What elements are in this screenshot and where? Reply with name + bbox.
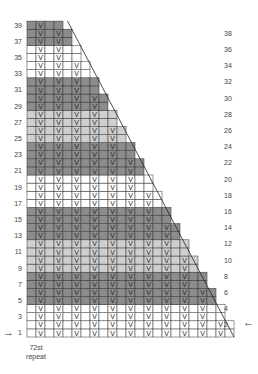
slip-stitch-v-icon: V <box>128 200 133 207</box>
right-row-number: 38 <box>224 30 244 38</box>
left-row-number: 33 <box>2 70 22 78</box>
right-row-number: 28 <box>224 111 244 119</box>
slip-stitch-v-icon: V <box>110 305 115 312</box>
chart-cell <box>99 280 108 288</box>
slip-stitch-v-icon: V <box>56 321 61 328</box>
chart-cell <box>81 256 90 264</box>
chart-cell <box>45 329 54 337</box>
slip-stitch-v-icon: V <box>182 273 187 280</box>
slip-stitch-v-icon: V <box>110 313 115 320</box>
slip-stitch-v-icon: V <box>110 330 115 337</box>
slip-stitch-v-icon: V <box>92 192 97 199</box>
slip-stitch-v-icon: V <box>182 313 187 320</box>
slip-stitch-v-icon: V <box>38 46 43 53</box>
slip-stitch-v-icon: V <box>92 135 97 142</box>
slip-stitch-v-icon: V <box>164 273 169 280</box>
chart-cell <box>45 86 54 94</box>
slip-stitch-v-icon: V <box>38 330 43 337</box>
slip-stitch-v-icon: V <box>128 257 133 264</box>
chart-cell <box>117 126 126 134</box>
slip-stitch-v-icon: V <box>56 127 61 134</box>
slip-stitch-v-icon: V <box>56 151 61 158</box>
chart-cell <box>27 21 36 29</box>
chart-cell <box>27 143 36 151</box>
chart-cell <box>81 313 90 321</box>
slip-stitch-v-icon: V <box>92 289 97 296</box>
slip-stitch-v-icon: V <box>110 208 115 215</box>
slip-stitch-v-icon: V <box>38 119 43 126</box>
slip-stitch-v-icon: V <box>56 208 61 215</box>
slip-stitch-v-icon: V <box>56 289 61 296</box>
slip-stitch-v-icon: V <box>164 257 169 264</box>
chart-cell <box>189 321 198 329</box>
chart-cell <box>27 175 36 183</box>
chart-cell <box>45 264 54 272</box>
slip-stitch-v-icon: V <box>146 289 151 296</box>
slip-stitch-v-icon: V <box>38 216 43 223</box>
slip-stitch-v-icon: V <box>74 240 79 247</box>
slip-stitch-v-icon: V <box>164 321 169 328</box>
chart-cell <box>45 280 54 288</box>
chart-cell <box>81 216 90 224</box>
chart-cell <box>99 272 108 280</box>
chart-cell <box>27 207 36 215</box>
slip-stitch-v-icon: V <box>182 281 187 288</box>
chart-cell <box>27 78 36 86</box>
slip-stitch-v-icon: V <box>146 330 151 337</box>
slip-stitch-v-icon: V <box>56 119 61 126</box>
chart-cell <box>135 305 144 313</box>
chart-cell <box>99 183 108 191</box>
chart-cell <box>207 288 216 296</box>
chart-cell <box>63 216 72 224</box>
chart-cell <box>45 256 54 264</box>
knitting-chart: VVVVVVVVVVVVVVVVVVVVVVVVVVVVVVVVVVVVVVVV… <box>0 0 258 374</box>
chart-cell <box>171 272 180 280</box>
slip-stitch-v-icon: V <box>128 168 133 175</box>
chart-cell <box>153 297 162 305</box>
chart-cell <box>81 329 90 337</box>
chart-cell <box>99 224 108 232</box>
chart-cell <box>117 175 126 183</box>
chart-cell <box>45 70 54 78</box>
chart-cell <box>81 264 90 272</box>
chart-cell <box>54 21 63 29</box>
slip-stitch-v-icon: V <box>92 313 97 320</box>
chart-cell <box>45 321 54 329</box>
chart-cell <box>81 70 90 78</box>
chart-cell <box>99 305 108 313</box>
left-row-number: 35 <box>2 54 22 62</box>
chart-cell <box>135 329 144 337</box>
chart-cell <box>27 321 36 329</box>
slip-stitch-v-icon: V <box>38 95 43 102</box>
chart-cell <box>27 297 36 305</box>
chart-cell <box>45 183 54 191</box>
chart-cell <box>63 126 72 134</box>
slip-stitch-v-icon: V <box>146 249 151 256</box>
slip-stitch-v-icon: V <box>182 305 187 312</box>
slip-stitch-v-icon: V <box>74 265 79 272</box>
slip-stitch-v-icon: V <box>74 119 79 126</box>
slip-stitch-v-icon: V <box>38 78 43 85</box>
chart-cell <box>63 288 72 296</box>
chart-cell <box>63 264 72 272</box>
chart-cell <box>153 329 162 337</box>
chart-cell <box>99 256 108 264</box>
slip-stitch-v-icon: V <box>56 313 61 320</box>
chart-cell <box>27 54 36 62</box>
slip-stitch-v-icon: V <box>38 176 43 183</box>
chart-cell <box>27 256 36 264</box>
slip-stitch-v-icon: V <box>56 184 61 191</box>
right-row-number: 24 <box>224 143 244 151</box>
slip-stitch-v-icon: V <box>38 297 43 304</box>
slip-stitch-v-icon: V <box>38 87 43 94</box>
chart-cell <box>207 329 216 337</box>
slip-stitch-v-icon: V <box>110 143 115 150</box>
slip-stitch-v-icon: V <box>128 330 133 337</box>
chart-cell <box>81 86 90 94</box>
slip-stitch-v-icon: V <box>128 289 133 296</box>
right-row-number: 30 <box>224 95 244 103</box>
chart-cell <box>99 110 108 118</box>
right-row-number: 10 <box>224 257 244 265</box>
slip-stitch-v-icon: V <box>110 289 115 296</box>
slip-stitch-v-icon: V <box>200 321 205 328</box>
